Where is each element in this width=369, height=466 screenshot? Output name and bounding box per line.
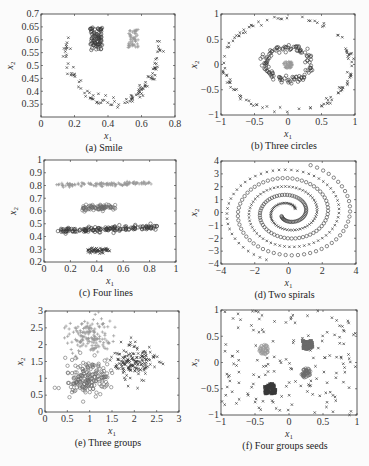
y-tick-label: 1	[38, 373, 43, 384]
subplot-b: −1−0.500.51−1−0.500.51x1x2(b) Three circ…	[188, 8, 358, 152]
y-tick-label: 0.4	[30, 231, 43, 242]
y-tick-label: −3	[208, 245, 219, 256]
y-tick-label: 0.9	[30, 167, 43, 178]
subplot-f: −1−0.500.51−1−0.500.51x1x2(f) Four group…	[188, 304, 360, 452]
y-tick-label: 0	[38, 406, 43, 417]
x-tick-label: 0.8	[169, 118, 182, 129]
y-tick-label: 1.5	[31, 356, 44, 367]
y-tick-label: −1	[208, 220, 219, 231]
x-tick-label: 0	[286, 116, 291, 127]
y-tick-label: 0	[214, 207, 219, 218]
y-tick-label: 0	[214, 59, 219, 70]
x-tick-label: 0.4	[91, 263, 104, 274]
y-tick-label: −1	[208, 109, 219, 120]
x-tick-label: 0	[287, 416, 292, 427]
y-tick-label: 0.5	[30, 218, 43, 229]
y-tick-label: 0.55	[22, 47, 40, 58]
x-tick-label: 2	[132, 413, 137, 424]
x-tick-label: −0.5	[245, 116, 263, 127]
y-tick-label: 4	[214, 155, 219, 166]
x-tick-label: 1	[355, 416, 360, 427]
y-tick-label: −4	[208, 258, 219, 269]
x-tick-label: 0.2	[64, 263, 77, 274]
x-tick-label: 0.8	[143, 263, 156, 274]
y-tick-label: 2.5	[31, 322, 44, 333]
x-tick-label: 0.5	[317, 416, 330, 427]
y-tick-label: 2	[214, 181, 219, 192]
y-tick-label: 0.2	[30, 256, 43, 267]
x-tick-label: 0.2	[68, 118, 81, 129]
x-tick-label: 2	[320, 265, 325, 276]
series-seed-group-2	[301, 339, 314, 350]
y-axis-label: x2	[7, 207, 20, 216]
subplot-caption: (f) Four groups seeds	[242, 440, 327, 452]
x-tick-label: −0.5	[246, 416, 264, 427]
y-tick-label: 2	[38, 339, 43, 350]
y-tick-label: 0.7	[27, 8, 40, 19]
subplot-caption: (b) Three circles	[251, 140, 317, 152]
x-tick-label: 0.6	[135, 118, 148, 129]
figure-canvas: 00.20.40.60.80.350.40.450.50.550.60.650.…	[0, 0, 369, 466]
y-tick-label: 3	[214, 168, 219, 179]
subplot-a: 00.20.40.60.80.350.40.450.50.550.60.650.…	[4, 8, 181, 154]
x-tick-label: −2	[249, 265, 260, 276]
y-axis-label: x2	[188, 60, 201, 69]
plot-frame	[44, 160, 176, 262]
y-tick-label: −2	[208, 233, 219, 244]
y-tick-label: 0.5	[207, 331, 220, 342]
subplot-c: 00.20.40.60.810.20.30.40.50.60.70.80.91x…	[7, 154, 179, 299]
x-tick-label: 0	[42, 263, 47, 274]
y-tick-label: 0.8	[30, 180, 43, 191]
y-tick-label: −1	[208, 409, 219, 420]
y-tick-label: 0.6	[30, 205, 43, 216]
x-tick-label: 0.4	[102, 118, 115, 129]
y-tick-label: 0.45	[22, 73, 40, 84]
x-tick-label: 3	[177, 413, 182, 424]
y-axis-label: x2	[188, 208, 201, 217]
x-tick-label: 1.5	[106, 413, 119, 424]
y-tick-label: 0.5	[207, 34, 220, 45]
subplot-e: 00.511.522.5300.511.522.53x1x2(e) Three …	[14, 305, 182, 449]
y-tick-label: 1	[214, 8, 219, 19]
y-tick-label: 0.35	[22, 98, 40, 109]
x-tick-label: 0	[39, 118, 44, 129]
y-tick-label: 1	[214, 304, 219, 315]
x-tick-label: 1	[174, 263, 179, 274]
x-tick-label: 0.5	[315, 116, 328, 127]
y-axis-label: x2	[14, 357, 27, 366]
x-tick-label: 0	[286, 265, 291, 276]
y-tick-label: 3	[38, 305, 43, 316]
subplot-caption: (c) Four lines	[79, 287, 133, 299]
y-tick-label: −0.5	[201, 84, 219, 95]
plot-frame	[41, 14, 175, 117]
x-tick-label: 0	[43, 413, 48, 424]
x-tick-label: 2.5	[150, 413, 163, 424]
y-tick-label: 0	[214, 357, 219, 368]
y-tick-label: 1	[37, 154, 42, 165]
y-axis-label: x2	[188, 358, 201, 367]
y-tick-label: 0.5	[27, 60, 40, 71]
x-tick-label: 1	[87, 413, 92, 424]
y-tick-label: 0.7	[30, 193, 43, 204]
y-tick-label: 0.3	[30, 244, 43, 255]
x-tick-label: 4	[354, 265, 359, 276]
y-tick-label: 0.65	[22, 21, 40, 32]
x-tick-label: 1	[353, 116, 358, 127]
y-tick-label: 0.4	[27, 86, 40, 97]
subplot-caption: (a) Smile	[86, 142, 123, 154]
x-tick-label: 0.6	[117, 263, 130, 274]
y-tick-label: 0.6	[27, 34, 40, 45]
subplot-d: −4−2024−4−3−2−101234x1x2(d) Two spirals	[188, 155, 359, 301]
y-tick-label: 0.5	[31, 389, 44, 400]
y-tick-label: −0.5	[201, 383, 219, 394]
y-axis-label: x2	[4, 61, 17, 70]
subplot-caption: (e) Three groups	[75, 437, 142, 449]
y-tick-label: 1	[214, 194, 219, 205]
x-tick-label: 0.5	[61, 413, 74, 424]
subplot-caption: (d) Two spirals	[254, 289, 314, 301]
